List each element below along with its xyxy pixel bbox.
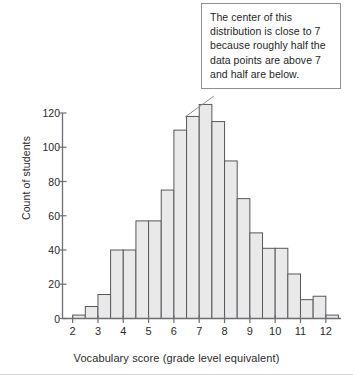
- x-axis-title: Vocabulary score (grade level equivalent…: [0, 352, 353, 364]
- histogram-bar: [111, 250, 124, 319]
- histogram-bar: [250, 233, 263, 319]
- annotation-callout: The center of this distribution is close…: [201, 3, 341, 89]
- histogram-bar: [300, 300, 313, 319]
- x-axis-tick-label: 4: [113, 325, 133, 337]
- x-axis-tick-label: 11: [290, 325, 310, 337]
- x-axis-tick-label: 8: [215, 325, 235, 337]
- histogram-bars: [73, 104, 339, 318]
- histogram-bar: [123, 250, 136, 319]
- x-axis-tick-labels: 23456789101112: [0, 325, 353, 345]
- x-axis-tick-label: 2: [63, 325, 83, 337]
- x-axis-tick-label: 12: [316, 325, 336, 337]
- histogram-figure: Count of students 020406080100120 234567…: [0, 0, 353, 381]
- histogram-bar: [199, 104, 212, 318]
- histogram-bar: [85, 307, 98, 319]
- histogram-bar: [275, 248, 288, 318]
- x-axis-tick-label: 5: [139, 325, 159, 337]
- histogram-bar: [263, 248, 276, 318]
- histogram-bar: [288, 274, 301, 319]
- histogram-bar: [187, 116, 200, 318]
- histogram-bar: [98, 295, 111, 319]
- histogram-bar: [313, 296, 326, 318]
- histogram-bar: [237, 199, 250, 319]
- histogram-bar: [149, 221, 162, 319]
- x-axis-tick-label: 6: [164, 325, 184, 337]
- histogram-bar: [174, 130, 187, 318]
- histogram-bar: [212, 122, 225, 319]
- x-axis-tick-label: 9: [240, 325, 260, 337]
- footer-divider: [0, 374, 353, 375]
- histogram-bar: [225, 161, 238, 319]
- histogram-bar: [136, 221, 149, 319]
- x-axis-tick-label: 10: [265, 325, 285, 337]
- x-axis-tick-label: 3: [88, 325, 108, 337]
- x-axis-tick-label: 7: [189, 325, 209, 337]
- histogram-bar: [161, 190, 174, 318]
